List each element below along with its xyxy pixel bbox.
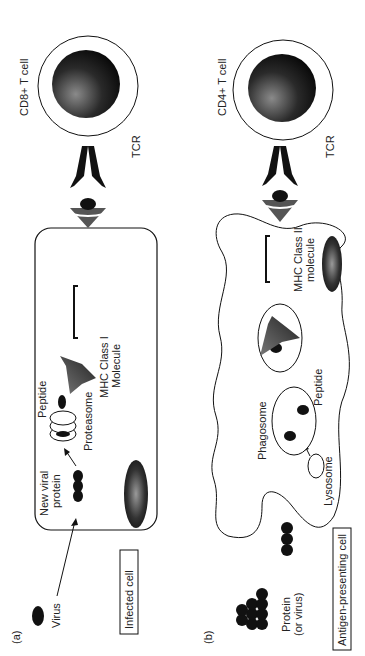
new-protein-label-1: New viral bbox=[38, 471, 50, 516]
surface-mhc-1-icon bbox=[70, 208, 106, 228]
protein-label-2: (or virus) bbox=[292, 593, 304, 636]
virus-icon bbox=[32, 606, 44, 626]
entry-arrow bbox=[57, 521, 75, 596]
mhc-2-bracket bbox=[266, 236, 270, 282]
t-cell-nucleus-icon bbox=[52, 50, 120, 118]
mhc-1-label-2: Molecule bbox=[110, 344, 122, 388]
presented-peptide-icon bbox=[80, 198, 96, 210]
mhc-2-label-2: molecule bbox=[304, 238, 316, 282]
cd8-t-cell-label: CD8+ T cell bbox=[18, 59, 30, 116]
peptide-label-a: Peptide bbox=[36, 381, 48, 418]
new-protein-label-2: protein bbox=[50, 474, 62, 508]
phagosome-icon bbox=[272, 387, 316, 455]
nucleus-icon bbox=[124, 460, 148, 528]
viral-protein-chain-icon bbox=[73, 470, 83, 502]
figure: (a) Virus Infected cell New viral protei… bbox=[0, 0, 365, 656]
virus-label: Virus bbox=[50, 603, 62, 628]
tcr-icon bbox=[262, 146, 298, 186]
engulfed-protein-icon bbox=[281, 522, 293, 556]
protein-cluster-icon bbox=[236, 588, 268, 630]
surface-mhc-2-icon bbox=[262, 200, 298, 222]
proteasome-label: Proteasome bbox=[82, 392, 94, 451]
tcr-label-a: TCR bbox=[130, 135, 142, 158]
presented-peptide-icon bbox=[272, 190, 288, 202]
protein-label-1: Protein bbox=[280, 597, 292, 632]
peptide-fragment-icon bbox=[297, 405, 309, 415]
panel-a: (a) Virus Infected cell New viral protei… bbox=[10, 36, 157, 644]
peptide-fragment-icon bbox=[284, 431, 296, 441]
panel-b: (b) Protein (or virus) Antigen-presentin… bbox=[202, 40, 351, 650]
panel-b-label: (b) bbox=[202, 631, 214, 644]
lysosome-label: Lysosome bbox=[322, 456, 334, 506]
mhc-bracket bbox=[74, 286, 78, 338]
apc-label: Antigen-presenting cell bbox=[336, 534, 348, 646]
peptide-label-b: Peptide bbox=[312, 369, 324, 406]
t-cell-nucleus-icon bbox=[248, 54, 316, 122]
mhc-1-label-1: MHC Class I bbox=[98, 336, 110, 398]
infected-cell-label: Infected cell bbox=[123, 570, 135, 629]
phagosome-label: Phagosome bbox=[256, 401, 268, 460]
mhc-2-label-1: MHC Class II bbox=[292, 227, 304, 292]
proteasome-icon bbox=[50, 411, 76, 441]
mhc-class-1-icon bbox=[60, 356, 96, 394]
tcr-icon bbox=[70, 146, 106, 188]
cd4-t-cell-label: CD4+ T cell bbox=[216, 59, 228, 116]
apc-nucleus-icon bbox=[322, 236, 342, 292]
tcr-label-b: TCR bbox=[324, 135, 336, 158]
arrowhead-icon bbox=[71, 518, 78, 526]
peptide-icon bbox=[58, 395, 66, 409]
panel-a-label: (a) bbox=[10, 631, 22, 644]
